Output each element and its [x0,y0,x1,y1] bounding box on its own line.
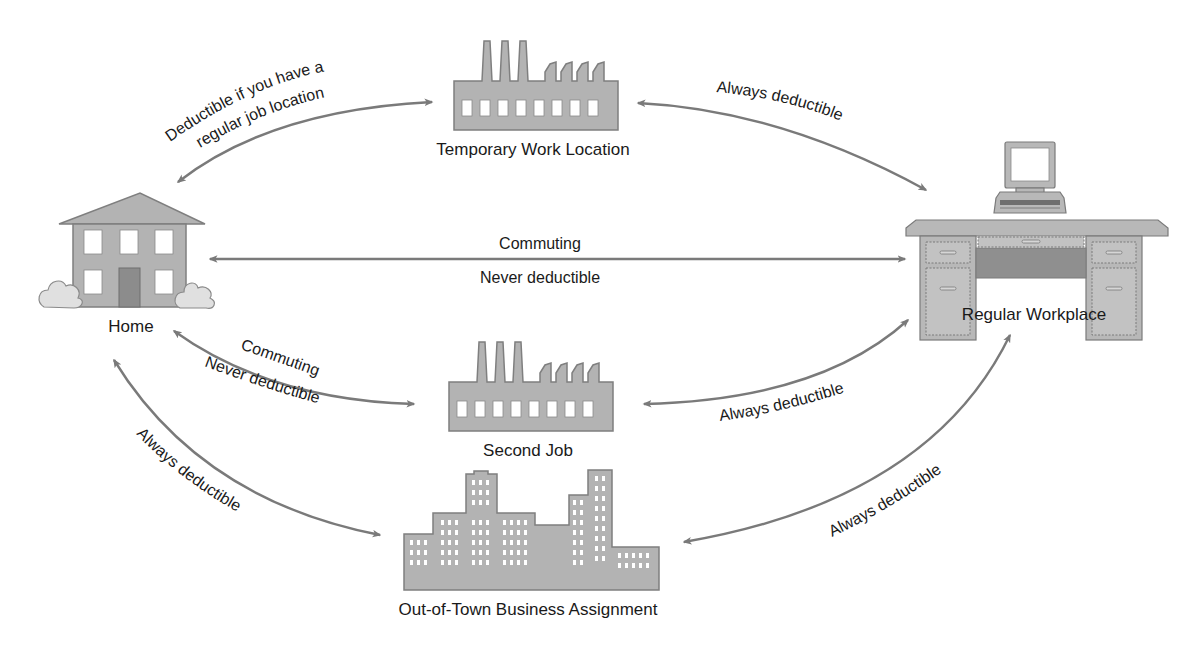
home-label: Home [108,317,153,336]
arrows [114,102,1010,542]
factory-icon [449,342,613,431]
label-home-regular-bottom: Never deductible [480,269,600,286]
temporary-work-location-node: Temporary Work Location [436,41,629,159]
factory-icon [454,41,618,130]
arrow-second-job-regular [644,320,908,404]
regular-workplace-label: Regular Workplace [962,305,1106,324]
out-of-town-node: Out-of-Town Business Assignment [399,470,659,619]
house-icon [39,193,214,308]
arrow-out-of-town-regular [684,335,1010,542]
arrow-temporary-regular [638,103,926,190]
second-job-label: Second Job [483,441,573,460]
out-of-town-label: Out-of-Town Business Assignment [399,600,658,619]
deduction-diagram: Home Temporary Work Location [0,0,1196,657]
home-node: Home [39,193,214,336]
temporary-work-location-label: Temporary Work Location [436,140,629,159]
city-buildings-icon [404,470,659,590]
label-home-regular-top: Commuting [499,235,581,252]
label-home-out-of-town: Always deductible [134,424,244,514]
regular-workplace-node: Regular Workplace [906,142,1168,340]
second-job-node: Second Job [449,342,613,460]
